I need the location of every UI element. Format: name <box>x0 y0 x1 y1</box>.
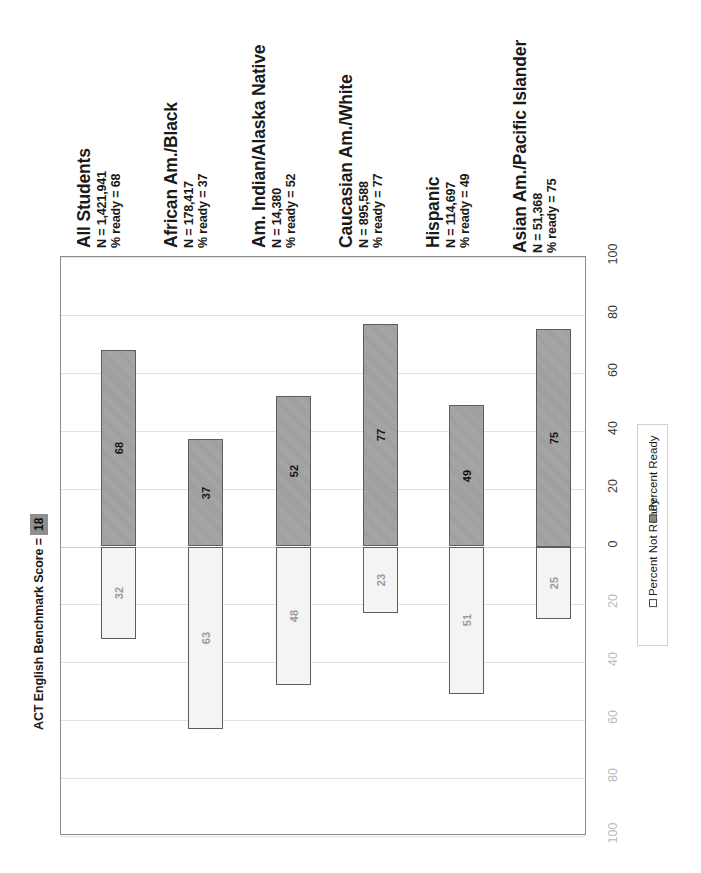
group-n: N = 51,368 <box>531 40 545 253</box>
group-n: N = 1,421,941 <box>95 148 109 248</box>
axis-tick-label: 20 <box>596 594 630 608</box>
group-ready: % ready = 68 <box>109 148 123 248</box>
bar-segment-percent-not-ready[interactable]: 23 <box>363 547 398 614</box>
group-n: N = 14,380 <box>270 45 284 248</box>
bar-value-label: 23 <box>375 574 387 586</box>
bar-segment-percent-ready[interactable]: 77 <box>363 324 398 547</box>
group-title: Hispanic <box>423 174 444 248</box>
bar-value-label: 68 <box>113 442 125 454</box>
gridline <box>61 720 585 721</box>
group-ready: % ready = 52 <box>284 45 298 248</box>
bar-value-label: 49 <box>461 469 473 481</box>
bar-value-label: 37 <box>200 487 212 499</box>
axis-tick-label: 20 <box>596 479 630 493</box>
bar-group[interactable]: 7525 <box>536 257 571 834</box>
axis-tick-label: 100 <box>596 826 630 840</box>
gridline <box>61 662 585 663</box>
group-title: All Students <box>74 148 95 248</box>
bar-segment-percent-ready[interactable]: 37 <box>188 439 223 546</box>
gridline <box>61 778 585 779</box>
bar-value-label: 75 <box>548 432 560 444</box>
group-ready: % ready = 49 <box>458 174 472 248</box>
bar-segment-percent-not-ready[interactable]: 32 <box>101 547 136 640</box>
bar-group[interactable]: 6832 <box>101 257 136 834</box>
bar-segment-percent-not-ready[interactable]: 51 <box>449 547 484 695</box>
legend-item-percent-ready[interactable]: Percent Ready <box>647 435 659 522</box>
group-title: Am. Indian/Alaska Native <box>249 45 270 248</box>
axis-tick-label: 100 <box>596 247 630 261</box>
axis-tick-label: 0 <box>596 537 630 551</box>
bar-segment-percent-not-ready[interactable]: 63 <box>188 547 223 729</box>
group-title: African Am./Black <box>161 102 182 248</box>
bar-group[interactable]: 5248 <box>276 257 311 834</box>
group-label-5: Asian Am./Pacific Islander N = 51,368 % … <box>510 40 559 253</box>
bar-group[interactable]: 4951 <box>449 257 484 834</box>
chart-canvas: All Students N = 1,421,941 % ready = 68 … <box>0 0 701 873</box>
bar-value-label: 52 <box>288 465 300 477</box>
legend-label: Percent Ready <box>647 435 659 511</box>
gridline <box>61 489 585 490</box>
group-label-4: Hispanic N = 114,697 % ready = 49 <box>423 174 472 248</box>
legend-swatch-not-ready-icon <box>649 599 657 607</box>
group-ready: % ready = 77 <box>371 74 385 248</box>
bar-group[interactable]: 3763 <box>188 257 223 834</box>
group-label-2: Am. Indian/Alaska Native N = 14,380 % re… <box>249 45 298 248</box>
group-label-1: African Am./Black N = 178,417 % ready = … <box>161 102 210 248</box>
axis-tick-label: 60 <box>596 710 630 724</box>
benchmark-label: ACT English Benchmark Score = <box>32 538 46 730</box>
bar-segment-percent-ready[interactable]: 68 <box>101 350 136 547</box>
gridline <box>61 373 585 374</box>
axis-tick-label: 40 <box>596 652 630 666</box>
bar-group[interactable]: 7723 <box>363 257 398 834</box>
bar-segment-percent-ready[interactable]: 75 <box>536 329 571 546</box>
bar-value-label: 77 <box>375 429 387 441</box>
gridline <box>61 315 585 316</box>
bar-segment-percent-ready[interactable]: 49 <box>449 405 484 547</box>
axis-tick-label: 80 <box>596 768 630 782</box>
bar-segment-percent-not-ready[interactable]: 48 <box>276 547 311 686</box>
bar-segment-percent-not-ready[interactable]: 25 <box>536 547 571 619</box>
axis-tick-label: 40 <box>596 421 630 435</box>
group-title: Asian Am./Pacific Islander <box>510 40 531 253</box>
bar-value-label: 63 <box>200 632 212 644</box>
bar-value-label: 32 <box>113 587 125 599</box>
group-n: N = 178,417 <box>182 102 196 248</box>
bar-value-label: 25 <box>548 577 560 589</box>
group-label-0: All Students N = 1,421,941 % ready = 68 <box>74 148 123 248</box>
legend-swatch-ready-icon <box>649 515 657 523</box>
group-n: N = 114,697 <box>444 174 458 248</box>
group-title: Caucasian Am./White <box>336 74 357 248</box>
bar-segment-percent-ready[interactable]: 52 <box>276 396 311 547</box>
group-n: N = 895,588 <box>357 74 371 248</box>
axis-tick-label: 80 <box>596 305 630 319</box>
gridline <box>61 836 585 837</box>
group-ready: % ready = 75 <box>545 40 559 253</box>
gridline <box>61 547 585 548</box>
plot-area: 683237635248772349517525 <box>60 256 586 835</box>
legend: Percent Not Ready Percent Ready <box>637 424 668 646</box>
axis-tick-label: 60 <box>596 363 630 377</box>
gridline <box>61 431 585 432</box>
bar-value-label: 51 <box>461 614 473 626</box>
gridline <box>61 604 585 605</box>
benchmark-annotation: ACT English Benchmark Score = 18 <box>30 514 48 730</box>
group-label-3: Caucasian Am./White N = 895,588 % ready … <box>336 74 385 248</box>
bar-value-label: 48 <box>288 610 300 622</box>
gridline <box>61 257 585 258</box>
group-ready: % ready = 37 <box>196 102 210 248</box>
benchmark-value: 18 <box>30 514 48 535</box>
